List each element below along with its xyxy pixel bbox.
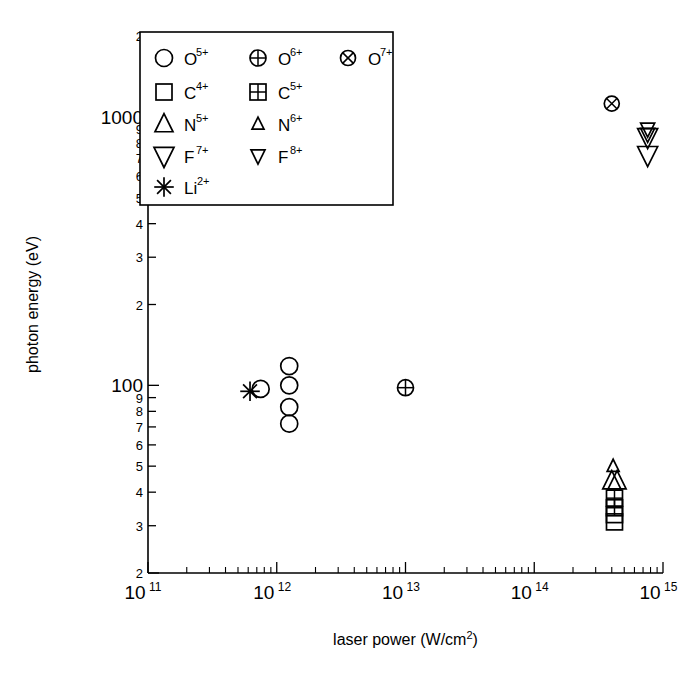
x-tick-label: 10	[511, 582, 532, 603]
legend-label: F	[184, 148, 194, 167]
marker-asterisk	[240, 382, 260, 402]
chart-figure: 2100098765432100987654321011101210131014…	[0, 0, 682, 685]
legend-charge: 7+	[380, 46, 393, 58]
y-tick-label: 2	[136, 566, 143, 581]
legend: O5+O6+O7+C4+C5+N5+N6+F7+F8+Li2+	[140, 32, 393, 205]
x-axis-title: laser power (W/cm2)	[333, 629, 478, 648]
x-tick-label: 10	[124, 582, 145, 603]
legend-charge: 2+	[197, 175, 210, 187]
marker-circle-open	[281, 415, 298, 432]
series-n-5+	[603, 471, 626, 489]
x-tick-exponent: 11	[149, 580, 162, 594]
legend-charge: 8+	[290, 144, 303, 156]
legend-charge: 4+	[196, 80, 209, 92]
marker-circle-open	[281, 358, 298, 375]
marker-circle-open	[281, 377, 298, 394]
marker-asterisk	[154, 177, 174, 197]
y-tick-label: 2	[136, 298, 143, 313]
legend-charge: 6+	[290, 112, 303, 124]
x-tick-label: 10	[639, 582, 660, 603]
series-o-6+	[398, 380, 414, 396]
marker-circle-open	[281, 399, 298, 416]
y-tick-label: 7	[136, 420, 143, 435]
series-o-7+	[604, 96, 619, 111]
legend-label: N	[184, 116, 196, 135]
legend-charge: 5+	[290, 80, 303, 92]
x-axis-ticks: 10111012101310141015	[124, 562, 677, 603]
legend-label: Li	[184, 179, 197, 198]
y-tick-label: 3	[136, 519, 143, 534]
series-n-6+	[607, 459, 619, 471]
y-tick-label: 3	[136, 250, 143, 265]
marker-circle-cross	[604, 96, 619, 111]
legend-label: F	[278, 148, 288, 167]
x-tick-label: 10	[253, 582, 274, 603]
x-tick-exponent: 15	[664, 580, 678, 594]
y-tick-label: 4	[136, 217, 143, 232]
y-tick-label: 8	[136, 404, 143, 419]
legend-charge: 6+	[290, 46, 303, 58]
legend-charge: 7+	[196, 144, 209, 156]
legend-label: C	[278, 84, 290, 103]
legend-label: C	[184, 84, 196, 103]
x-tick-exponent: 12	[278, 580, 292, 594]
scatter-plot-canvas: 2100098765432100987654321011101210131014…	[0, 0, 682, 685]
legend-charge: 5+	[196, 112, 209, 124]
series-o-5+	[252, 358, 298, 433]
marker-circle-plus	[250, 50, 266, 66]
marker-circle-plus	[398, 380, 414, 396]
x-tick-exponent: 13	[407, 580, 421, 594]
legend-charge: 5+	[196, 46, 209, 58]
marker-triangle-up-small	[607, 459, 619, 471]
y-tick-label: 6	[136, 438, 143, 453]
x-tick-label: 10	[382, 582, 403, 603]
y-tick-label: 5	[136, 459, 143, 474]
marker-triangle-down-small	[641, 123, 655, 137]
y-tick-label: 4	[136, 485, 143, 500]
series-c-5+	[606, 490, 622, 516]
y-axis-title: photon energy (eV)	[24, 236, 41, 373]
series-li-2+	[240, 382, 260, 402]
series-f-7+	[638, 129, 658, 167]
x-tick-exponent: 14	[535, 580, 549, 594]
legend-label: N	[278, 116, 290, 135]
